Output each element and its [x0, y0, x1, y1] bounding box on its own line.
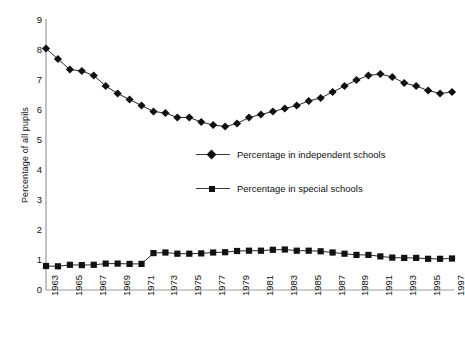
- y-axis-tick-labels: 9876543210: [26, 0, 42, 346]
- legend-label-independent-schools: Percentage in independent schools: [230, 149, 385, 160]
- data-point-square: [210, 249, 216, 255]
- data-point-square: [246, 248, 252, 254]
- legend-item-special-schools[interactable]: Percentage in special schools: [196, 182, 385, 195]
- data-point-diamond: [209, 121, 217, 129]
- data-point-diamond: [233, 119, 241, 127]
- data-point-square: [258, 248, 264, 254]
- data-point-diamond: [269, 107, 277, 115]
- y-tick-label: 2: [28, 225, 42, 235]
- data-point-diamond: [221, 122, 229, 130]
- data-point-diamond: [125, 95, 133, 103]
- data-point-diamond: [328, 88, 336, 96]
- y-tick-label: 9: [28, 15, 42, 25]
- data-point-square: [91, 262, 97, 268]
- legend-label-special-schools: Percentage in special schools: [230, 183, 363, 194]
- data-point-diamond: [161, 109, 169, 117]
- data-point-diamond: [293, 101, 301, 109]
- data-point-diamond: [185, 113, 193, 121]
- data-point-square: [365, 252, 371, 258]
- data-point-square: [174, 251, 180, 257]
- y-tick-label: 3: [28, 195, 42, 205]
- data-point-square: [222, 249, 228, 255]
- data-point-square: [401, 255, 407, 261]
- data-point-square: [162, 249, 168, 255]
- data-point-diamond: [352, 76, 360, 84]
- data-point-square: [306, 248, 312, 254]
- data-point-diamond: [412, 82, 420, 90]
- data-point-square: [329, 249, 335, 255]
- data-point-diamond: [197, 118, 205, 126]
- data-point-square: [138, 261, 144, 267]
- data-point-square: [270, 247, 276, 253]
- y-tick-label: 0: [28, 285, 42, 295]
- data-point-diamond: [257, 110, 265, 118]
- data-point-diamond: [317, 94, 325, 102]
- data-point-square: [318, 248, 324, 254]
- data-point-diamond: [436, 89, 444, 97]
- data-point-diamond: [281, 104, 289, 112]
- data-point-diamond: [448, 88, 456, 96]
- data-point-square: [55, 263, 61, 269]
- data-point-square: [377, 253, 383, 259]
- data-point-diamond: [364, 71, 372, 79]
- data-point-square: [103, 261, 109, 267]
- diamond-marker-icon: [196, 148, 230, 161]
- chart-figure: Percentage of all pupils 9876543210 1963…: [0, 0, 465, 346]
- data-point-diamond: [245, 113, 253, 121]
- data-point-square: [353, 252, 359, 258]
- y-tick-label: 6: [28, 105, 42, 115]
- data-point-diamond: [137, 101, 145, 109]
- data-point-square: [186, 251, 192, 257]
- data-point-diamond: [114, 89, 122, 97]
- data-point-square: [198, 250, 204, 256]
- y-tick-label: 4: [28, 165, 42, 175]
- data-point-square: [413, 255, 419, 261]
- data-point-square: [449, 255, 455, 261]
- data-point-square: [282, 246, 288, 252]
- data-point-diamond: [388, 73, 396, 81]
- data-point-square: [437, 256, 443, 262]
- data-point-diamond: [149, 107, 157, 115]
- data-point-diamond: [376, 70, 384, 78]
- data-point-diamond: [424, 86, 432, 94]
- data-point-diamond: [305, 97, 313, 105]
- data-point-diamond: [173, 113, 181, 121]
- y-tick-label: 5: [28, 135, 42, 145]
- chart-legend: Percentage in independent schools Percen…: [196, 148, 385, 216]
- data-point-square: [79, 262, 85, 268]
- y-tick-label: 8: [28, 45, 42, 55]
- data-point-square: [425, 256, 431, 262]
- series-special-schools: [43, 246, 455, 269]
- data-point-square: [294, 248, 300, 254]
- data-point-square: [341, 251, 347, 257]
- y-tick-label: 7: [28, 75, 42, 85]
- data-point-square: [150, 250, 156, 256]
- data-point-square: [234, 248, 240, 254]
- data-point-diamond: [400, 79, 408, 87]
- data-point-square: [389, 255, 395, 261]
- data-point-square: [115, 261, 121, 267]
- data-point-square: [43, 263, 49, 269]
- legend-item-independent-schools[interactable]: Percentage in independent schools: [196, 148, 385, 161]
- data-point-square: [67, 262, 73, 268]
- y-tick-label: 1: [28, 255, 42, 265]
- series-independent-schools: [42, 44, 456, 130]
- data-point-square: [126, 261, 132, 267]
- data-point-diamond: [340, 82, 348, 90]
- square-marker-icon: [196, 182, 230, 195]
- data-point-diamond: [78, 67, 86, 75]
